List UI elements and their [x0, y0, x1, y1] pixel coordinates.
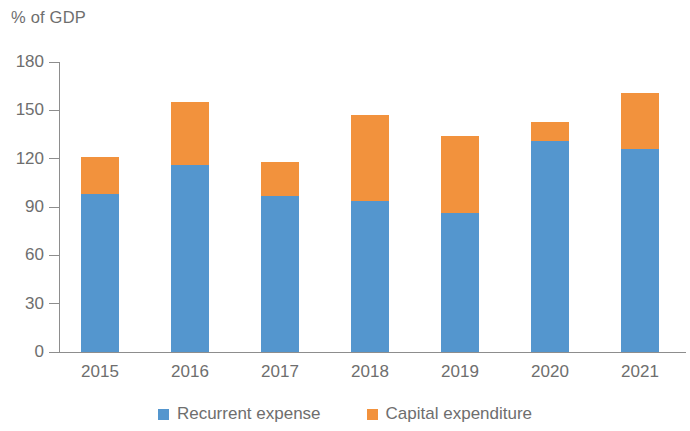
x-tick-label-2015: 2015: [55, 362, 145, 382]
y-tick-mark: [49, 207, 59, 208]
legend-item-recurrent-expense[interactable]: Recurrent expense: [158, 404, 321, 424]
square-swatch-orange-icon: [367, 409, 378, 420]
bar-segment-recurrent-expense[interactable]: [621, 149, 659, 352]
x-tick-label-2019: 2019: [415, 362, 505, 382]
bar-segment-recurrent-expense[interactable]: [441, 213, 479, 352]
bar-segment-capital-expenditure[interactable]: [171, 102, 209, 165]
legend-label: Recurrent expense: [177, 404, 321, 424]
x-tick-label-2021: 2021: [595, 362, 685, 382]
x-tick-label-2016: 2016: [145, 362, 235, 382]
y-tick-mark: [49, 62, 59, 63]
bar-group-2016[interactable]: [171, 102, 209, 352]
bar-segment-capital-expenditure[interactable]: [441, 136, 479, 213]
x-tick-label-2017: 2017: [235, 362, 325, 382]
legend-label: Capital expenditure: [386, 404, 532, 424]
y-tick-mark: [49, 110, 59, 111]
bar-segment-capital-expenditure[interactable]: [261, 162, 299, 196]
y-tick-label: 90: [0, 198, 44, 215]
stacked-bar-chart: % of GDP 1801501209060300 20152016201720…: [0, 0, 690, 431]
bar-group-2015[interactable]: [81, 157, 119, 352]
y-tick-mark: [49, 158, 59, 159]
bar-group-2018[interactable]: [351, 115, 389, 352]
bar-group-2021[interactable]: [621, 93, 659, 352]
bar-segment-capital-expenditure[interactable]: [621, 93, 659, 149]
y-tick-mark: [49, 255, 59, 256]
bar-group-2020[interactable]: [531, 122, 569, 352]
bar-group-2019[interactable]: [441, 136, 479, 352]
bar-segment-recurrent-expense[interactable]: [351, 201, 389, 352]
y-tick-label: 60: [0, 246, 44, 263]
x-tick-label-2020: 2020: [505, 362, 595, 382]
bar-segment-recurrent-expense[interactable]: [81, 194, 119, 352]
square-swatch-blue-icon: [158, 409, 169, 420]
bar-segment-capital-expenditure[interactable]: [531, 122, 569, 141]
bar-segment-recurrent-expense[interactable]: [261, 196, 299, 352]
y-tick-label: 0: [0, 343, 44, 360]
bar-segment-recurrent-expense[interactable]: [171, 165, 209, 352]
y-tick-label: 30: [0, 295, 44, 312]
plot-area: 1801501209060300 20152016201720182019202…: [0, 0, 690, 431]
bar-segment-recurrent-expense[interactable]: [531, 141, 569, 352]
y-tick-mark: [49, 352, 59, 353]
y-tick-label: 150: [0, 101, 44, 118]
y-tick-label: 120: [0, 150, 44, 167]
x-axis-line: [59, 352, 686, 353]
y-tick-label: 180: [0, 53, 44, 70]
y-tick-mark: [49, 303, 59, 304]
legend-item-capital-expenditure[interactable]: Capital expenditure: [367, 404, 532, 424]
bar-segment-capital-expenditure[interactable]: [81, 157, 119, 194]
x-tick-label-2018: 2018: [325, 362, 415, 382]
bar-segment-capital-expenditure[interactable]: [351, 115, 389, 200]
chart-legend: Recurrent expenseCapital expenditure: [0, 404, 690, 424]
y-axis-line: [59, 62, 60, 352]
bar-group-2017[interactable]: [261, 162, 299, 352]
